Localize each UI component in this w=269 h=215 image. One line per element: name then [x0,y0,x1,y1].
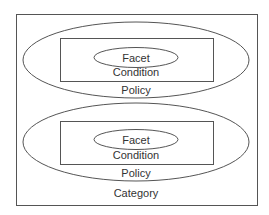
facet-label: Facet [122,52,150,64]
condition-label: Condition [113,66,159,78]
category-label: Category [114,187,159,199]
category-diagram: Facet Condition Policy Facet Condition P… [0,0,269,215]
policy-group-2: Facet Condition Policy [23,103,249,181]
facet-label: Facet [122,134,150,146]
condition-label: Condition [113,149,159,161]
policy-group-1: Facet Condition Policy [23,22,249,98]
policy-label: Policy [121,167,151,179]
policy-label: Policy [121,84,151,96]
